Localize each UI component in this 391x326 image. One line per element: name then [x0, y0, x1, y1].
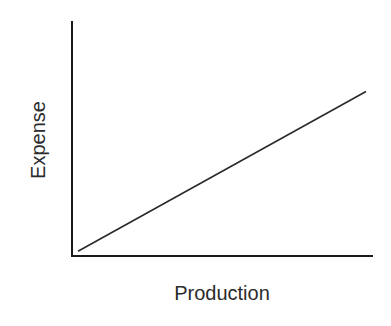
- y-axis-label: Expense: [27, 101, 49, 179]
- series-line-0: [78, 92, 366, 252]
- series-layer: [78, 92, 366, 252]
- chart: Production Expense: [0, 0, 391, 326]
- x-axis-label: Production: [174, 282, 270, 304]
